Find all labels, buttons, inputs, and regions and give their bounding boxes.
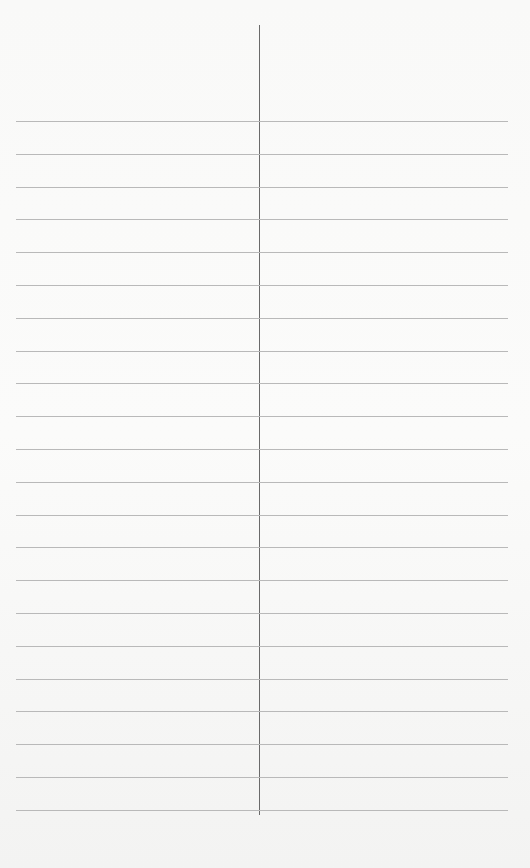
ruled-line [16,777,508,778]
ruled-line [16,547,508,548]
vertical-divider-line [259,25,260,815]
ruled-line [16,711,508,712]
ruled-line [16,154,508,155]
ruled-line [16,219,508,220]
ruled-line [16,515,508,516]
ruled-line [16,351,508,352]
ruled-line [16,383,508,384]
ruled-line [16,121,508,122]
ruled-line [16,285,508,286]
ruled-line [16,318,508,319]
ruled-paper-sheet [0,0,530,868]
ruled-line [16,744,508,745]
ruled-line [16,482,508,483]
ruled-line [16,613,508,614]
ruled-line [16,810,508,811]
ruled-line [16,646,508,647]
ruled-line [16,580,508,581]
ruled-line [16,679,508,680]
ruled-line [16,187,508,188]
ruled-line [16,252,508,253]
ruled-line [16,416,508,417]
ruled-line [16,449,508,450]
